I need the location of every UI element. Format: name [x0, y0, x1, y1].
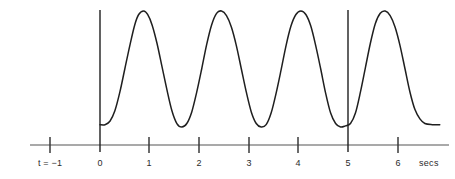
tick-label-2: 2 [185, 158, 213, 168]
tick-label-6: 6 [384, 158, 412, 168]
tick-label-3: 3 [235, 158, 263, 168]
tick-label-5: 5 [334, 158, 362, 168]
axis-unit-label: secs [419, 158, 439, 168]
tick-label-4: 4 [284, 158, 312, 168]
tick-label-1: 1 [135, 158, 163, 168]
waveform-figure: t = −1 0 1 2 3 4 5 6 secs [0, 0, 455, 179]
tick-label-minus-1: t = −1 [18, 158, 82, 168]
waveform-curve [100, 11, 440, 127]
tick-label-0: 0 [86, 158, 114, 168]
waveform-plot [0, 0, 455, 179]
